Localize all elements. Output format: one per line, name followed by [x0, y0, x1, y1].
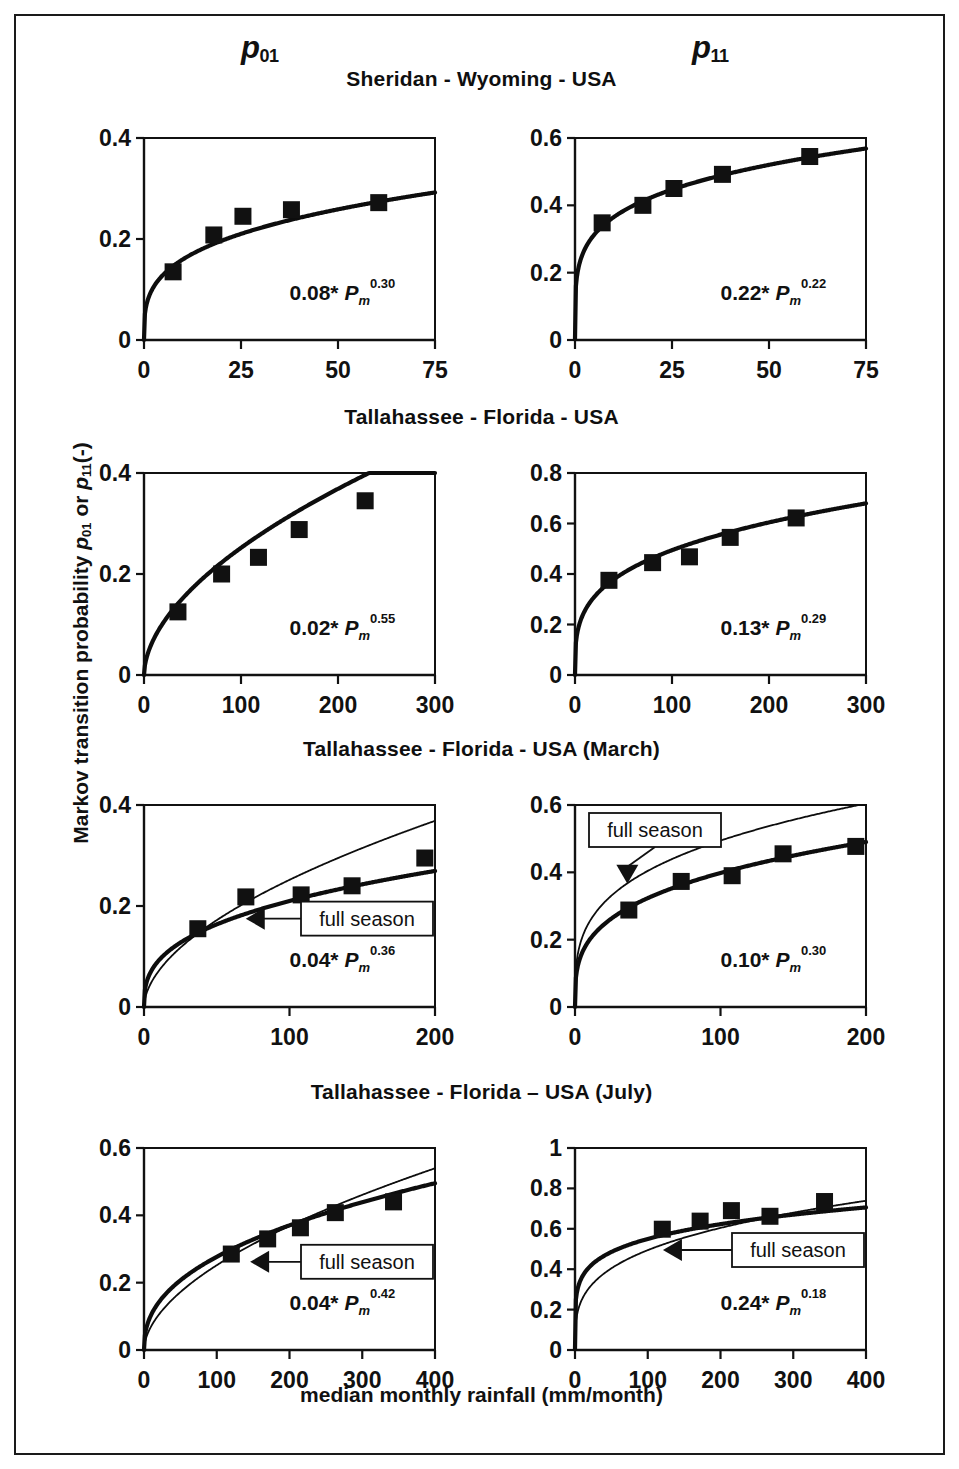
full-season-annotation: full season [250, 1245, 433, 1279]
x-tick-label: 0 [569, 357, 582, 383]
data-point-marker [801, 148, 818, 165]
y-tick-label: 0.6 [530, 1216, 562, 1242]
y-tick-label: 0 [549, 1337, 562, 1363]
plot-frame [144, 473, 435, 675]
data-point-marker [237, 888, 254, 905]
y-tick-label: 0.4 [99, 792, 131, 818]
fitted-curve [575, 503, 866, 675]
data-point-marker [385, 1193, 402, 1210]
data-point-marker [634, 197, 651, 214]
y-tick-label: 0.2 [530, 1297, 562, 1323]
y-tick-label: 0.2 [99, 226, 131, 252]
data-point-marker [291, 521, 308, 538]
data-point-marker [654, 1221, 671, 1238]
y-tick-label: 0 [549, 327, 562, 353]
data-point-marker [847, 838, 864, 855]
x-tick-label: 100 [270, 1024, 308, 1050]
y-tick-label: 0.8 [530, 460, 562, 486]
data-point-marker [169, 603, 186, 620]
y-tick-label: 0.4 [530, 561, 562, 587]
x-tick-label: 100 [653, 692, 691, 718]
chart-panel-tallahassee-july-p01: 00.20.40.601002003004000.04* Pm0.42full … [82, 1132, 457, 1408]
fit-equation-label: 0.24* Pm0.18 [721, 1286, 827, 1318]
x-tick-label: 200 [847, 1024, 885, 1050]
data-point-marker [788, 509, 805, 526]
x-tick-label: 0 [138, 1367, 151, 1393]
x-tick-label: 200 [416, 1024, 454, 1050]
data-point-marker [681, 548, 698, 565]
y-tick-label: 0.4 [99, 460, 131, 486]
x-tick-label: 100 [701, 1024, 739, 1050]
data-point-marker [600, 572, 617, 589]
data-point-marker [416, 850, 433, 867]
axis-lines [144, 138, 435, 340]
y-tick-label: 0.6 [99, 1135, 131, 1161]
plot-frame [144, 138, 435, 340]
data-point-marker [189, 920, 206, 937]
chart-panel-tallahassee-july-p11: 00.20.40.60.8101002003004000.24* Pm0.18f… [513, 1132, 888, 1408]
x-tick-label: 200 [701, 1367, 739, 1393]
fitted-curve [144, 473, 435, 675]
data-point-marker [250, 549, 267, 566]
y-tick-label: 0.8 [530, 1175, 562, 1201]
x-tick-label: 100 [629, 1367, 667, 1393]
data-point-marker [165, 263, 182, 280]
x-tick-label: 0 [138, 692, 151, 718]
fit-equation-label: 0.08* Pm0.30 [290, 276, 396, 308]
fit-equation-label: 0.22* Pm0.22 [721, 276, 827, 308]
annotation-label: full season [319, 1251, 415, 1273]
x-tick-label: 200 [750, 692, 788, 718]
y-tick-label: 0 [118, 1337, 131, 1363]
y-tick-label: 0.4 [530, 859, 562, 885]
y-tick-label: 0 [118, 327, 131, 353]
section-title-3: Tallahassee - Florida – USA (July) [16, 1080, 947, 1104]
y-tick-label: 0 [118, 994, 131, 1020]
data-point-marker [723, 1202, 740, 1219]
x-tick-label: 400 [847, 1367, 885, 1393]
fit-equation-label: 0.04* Pm0.42 [290, 1286, 396, 1318]
data-point-marker [327, 1204, 344, 1221]
x-tick-label: 0 [138, 357, 151, 383]
chart-panel-tallahassee-march-p01: 00.20.401002000.04* Pm0.36full season [82, 789, 457, 1065]
chart-panel-tallahassee-march-p11: 00.20.40.601002000.10* Pm0.30full season [513, 789, 888, 1065]
data-point-marker [722, 529, 739, 546]
y-tick-label: 0 [549, 994, 562, 1020]
x-tick-label: 300 [774, 1367, 812, 1393]
chart-panel-sheridan-p11: 00.20.40.602550750.22* Pm0.22 [513, 122, 888, 398]
y-tick-label: 0.4 [530, 1256, 562, 1282]
fit-equation-label: 0.04* Pm0.36 [290, 943, 396, 975]
y-tick-label: 0.2 [99, 893, 131, 919]
chart-panel-tallahassee-p11: 00.20.40.60.801002003000.13* Pm0.29 [513, 457, 888, 733]
x-tick-label: 200 [270, 1367, 308, 1393]
x-tick-label: 50 [756, 357, 782, 383]
data-point-marker [724, 867, 741, 884]
data-point-marker [344, 877, 361, 894]
x-tick-label: 400 [416, 1367, 454, 1393]
data-point-marker [775, 845, 792, 862]
y-tick-label: 0.4 [530, 192, 562, 218]
y-tick-label: 0 [118, 662, 131, 688]
data-point-marker [292, 1219, 309, 1236]
section-title-0: Sheridan - Wyoming - USA [16, 67, 947, 91]
x-tick-label: 200 [319, 692, 357, 718]
x-tick-label: 25 [228, 357, 254, 383]
annotation-label: full season [607, 819, 703, 841]
x-tick-label: 75 [853, 357, 879, 383]
x-tick-label: 100 [198, 1367, 236, 1393]
annotation-label: full season [750, 1239, 846, 1261]
y-tick-label: 0.2 [530, 612, 562, 638]
y-tick-label: 0.6 [530, 511, 562, 537]
y-tick-label: 0.2 [530, 260, 562, 286]
data-point-marker [620, 902, 637, 919]
y-tick-label: 0.2 [99, 561, 131, 587]
data-point-marker [213, 566, 230, 583]
fit-equation-label: 0.02* Pm0.55 [290, 611, 396, 643]
chart-panel-tallahassee-p01: 00.20.401002003000.02* Pm0.55 [82, 457, 457, 733]
data-point-marker [673, 873, 690, 890]
x-tick-label: 300 [343, 1367, 381, 1393]
x-tick-label: 0 [569, 1024, 582, 1050]
column-header-p11: p11 [692, 30, 728, 66]
full-season-annotation: full season [663, 1233, 864, 1267]
data-point-marker [205, 226, 222, 243]
annotation-label: full season [319, 908, 415, 930]
